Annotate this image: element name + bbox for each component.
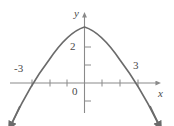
y-axis-label: y	[74, 8, 79, 19]
y-tick-label-2: 2	[70, 41, 76, 52]
parabola-figure: y x 2 0 -3 3	[0, 0, 174, 126]
x-axis-label: x	[158, 88, 163, 99]
parabola-right-arrow	[150, 106, 158, 123]
parabola-left-arrow	[12, 106, 20, 123]
y-axis	[85, 17, 92, 113]
x-tick-label-3: 3	[133, 60, 139, 71]
graph-canvas	[0, 0, 174, 126]
origin-label: 0	[72, 86, 78, 97]
y-axis-ticks	[85, 47, 92, 101]
x-tick-label-negative-3: -3	[14, 63, 23, 74]
